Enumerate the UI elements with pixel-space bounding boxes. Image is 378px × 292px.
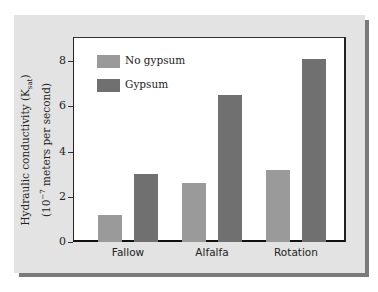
y-tick — [68, 242, 73, 243]
y-tick-label: 8 — [52, 54, 66, 67]
y-tick-label: 6 — [52, 99, 66, 112]
y-axis-label: Hydraulic conductivity (Ksat) (10−7 mete… — [19, 74, 53, 225]
legend-label-gypsum: Gypsum — [125, 78, 168, 90]
legend-label-no-gypsum: No gypsum — [125, 54, 185, 66]
y-tick-label: 2 — [52, 190, 66, 203]
y-tick — [68, 61, 73, 62]
y-tick — [68, 152, 73, 153]
bar-alfalfa-no-gypsum — [182, 183, 206, 242]
legend-swatch-no-gypsum — [97, 55, 120, 68]
y-tick-label: 4 — [52, 145, 66, 158]
x-tick-label-rotation: Rotation — [256, 246, 336, 258]
legend-swatch-gypsum — [97, 79, 120, 92]
bar-fallow-gypsum — [134, 174, 158, 242]
bar-rotation-no-gypsum — [266, 170, 290, 242]
bar-rotation-gypsum — [302, 59, 326, 242]
x-tick-label-fallow: Fallow — [88, 246, 168, 258]
y-tick — [68, 106, 73, 107]
bar-fallow-no-gypsum — [98, 215, 122, 242]
y-tick — [68, 197, 73, 198]
y-tick-label: 0 — [52, 235, 66, 248]
bar-alfalfa-gypsum — [218, 95, 242, 242]
x-tick-label-alfalfa: Alfalfa — [172, 246, 252, 258]
